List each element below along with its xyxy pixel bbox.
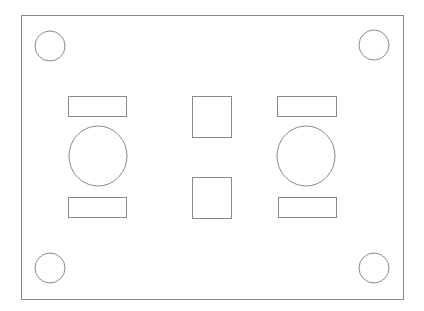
center-bottom-square bbox=[193, 178, 232, 219]
mounting-hole-3 bbox=[35, 253, 65, 283]
mounting-hole-4 bbox=[359, 253, 389, 283]
right-bottom-rect bbox=[279, 198, 337, 218]
mounting-hole-2 bbox=[359, 30, 389, 60]
mounting-hole-1 bbox=[35, 31, 65, 61]
rectangular-cutouts bbox=[69, 97, 337, 219]
right-large-circle bbox=[277, 126, 335, 186]
left-bottom-rect bbox=[69, 198, 127, 218]
left-top-rect bbox=[69, 97, 127, 117]
mounting-holes bbox=[35, 30, 389, 283]
diagram-canvas bbox=[0, 0, 424, 311]
board-outline bbox=[22, 16, 404, 300]
left-large-circle bbox=[69, 126, 127, 186]
panel-layout-drawing bbox=[0, 0, 424, 311]
center-top-square bbox=[193, 97, 232, 138]
right-top-rect bbox=[278, 97, 337, 117]
